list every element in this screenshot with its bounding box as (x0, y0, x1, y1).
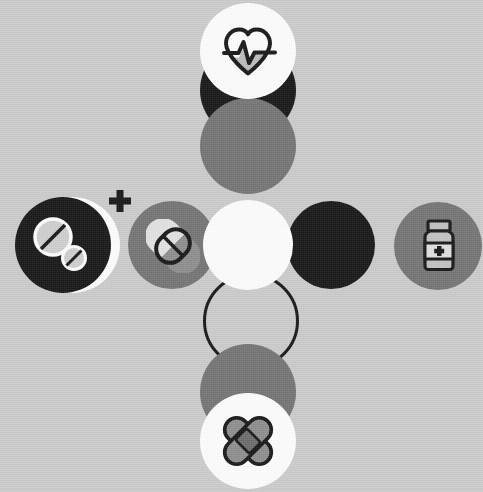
illustration-canvas (0, 0, 483, 492)
crossed-bandage-icon (216, 409, 280, 473)
top-gray-backdrop-circle (200, 98, 296, 194)
node-right-inner[interactable] (287, 201, 375, 289)
medicine-bottle-icon (416, 218, 462, 274)
plus-mark-icon (109, 190, 131, 212)
heart-pulse-icon (216, 19, 280, 83)
capsule-pill-icon (146, 219, 200, 273)
node-center[interactable] (203, 200, 293, 290)
tablet-pills-icon (27, 212, 95, 278)
